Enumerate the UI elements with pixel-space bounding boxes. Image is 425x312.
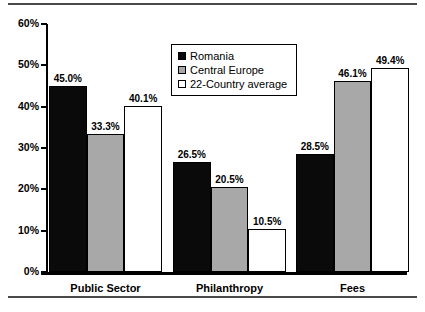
legend-item[interactable]: Romania bbox=[178, 49, 287, 63]
top-divider-rule bbox=[8, 3, 417, 5]
bottom-divider-rule bbox=[8, 296, 417, 298]
bar-value-label: 10.5% bbox=[253, 216, 281, 227]
legend-item[interactable]: 22-Country average bbox=[178, 77, 287, 91]
legend-swatch-icon bbox=[178, 52, 186, 60]
y-axis-tick-label: 50% bbox=[18, 58, 39, 70]
y-axis-tick bbox=[41, 147, 47, 149]
legend-label: Central Europe bbox=[190, 64, 264, 77]
x-axis-line bbox=[41, 272, 407, 275]
y-axis-tick-label: 40% bbox=[18, 100, 39, 112]
bar[interactable]: 49.4% bbox=[371, 68, 409, 272]
bar[interactable]: 28.5% bbox=[296, 154, 334, 272]
bar[interactable]: 40.1% bbox=[124, 106, 162, 272]
bar-group: 28.5%46.1%49.4% bbox=[296, 24, 409, 272]
y-axis-tick bbox=[41, 106, 47, 108]
bar[interactable]: 20.5% bbox=[211, 187, 249, 272]
bar[interactable]: 46.1% bbox=[334, 81, 372, 272]
bar[interactable]: 33.3% bbox=[87, 134, 125, 272]
bar-value-label: 33.3% bbox=[91, 121, 119, 132]
y-axis-tick bbox=[41, 188, 47, 190]
y-axis-tick-label: 10% bbox=[18, 224, 39, 236]
bar-value-label: 49.4% bbox=[376, 55, 404, 66]
bar-value-label: 28.5% bbox=[301, 141, 329, 152]
legend-swatch-icon bbox=[178, 80, 186, 88]
bar-value-label: 45.0% bbox=[54, 73, 82, 84]
chart-legend: RomaniaCentral Europe22-Country average bbox=[171, 44, 297, 96]
y-axis-tick-label: 20% bbox=[18, 182, 39, 194]
chart-figure: 0%10%20%30%40%50%60% 45.0%33.3%40.1%26.5… bbox=[0, 0, 425, 312]
bar-value-label: 46.1% bbox=[338, 68, 366, 79]
category-label: Fees bbox=[296, 282, 409, 294]
y-axis-tick-label: 60% bbox=[18, 17, 39, 29]
legend-label: 22-Country average bbox=[190, 78, 287, 91]
bar-group: 45.0%33.3%40.1% bbox=[49, 24, 162, 272]
bar[interactable]: 10.5% bbox=[248, 229, 286, 272]
category-label: Philanthropy bbox=[173, 282, 286, 294]
bar[interactable]: 26.5% bbox=[173, 162, 211, 272]
bar[interactable]: 45.0% bbox=[49, 86, 87, 272]
y-axis-tick bbox=[41, 64, 47, 66]
bar-value-label: 26.5% bbox=[178, 149, 206, 160]
category-label: Public Sector bbox=[49, 282, 162, 294]
legend-item[interactable]: Central Europe bbox=[178, 63, 287, 77]
bar-value-label: 40.1% bbox=[129, 93, 157, 104]
legend-swatch-icon bbox=[178, 66, 186, 74]
legend-label: Romania bbox=[190, 50, 234, 63]
y-axis-tick bbox=[41, 230, 47, 232]
bar-value-label: 20.5% bbox=[215, 174, 243, 185]
y-axis-tick bbox=[41, 23, 47, 25]
y-axis-tick bbox=[41, 271, 47, 273]
y-axis-tick-label: 30% bbox=[18, 141, 39, 153]
y-axis-tick-label: 0% bbox=[24, 265, 39, 277]
